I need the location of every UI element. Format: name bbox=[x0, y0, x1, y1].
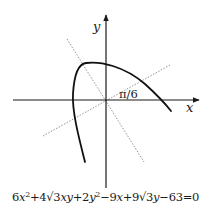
eq-term: +4 bbox=[30, 190, 46, 204]
eq-coef: 6 bbox=[12, 190, 19, 204]
eq-sqrt: √3 bbox=[46, 190, 60, 204]
conic-equation: 6x2+4√3xy+2y2−9x+9√3y−63=0 bbox=[0, 190, 211, 204]
eq-term: +9 bbox=[123, 190, 139, 204]
x-axis-label: x bbox=[186, 100, 194, 115]
eq-sqrt: √3 bbox=[139, 190, 153, 204]
parabola-curve bbox=[73, 63, 171, 162]
eq-term: −63=0 bbox=[159, 190, 199, 204]
conic-diagram: y x π/6 bbox=[0, 0, 211, 216]
eq-var: xy bbox=[60, 190, 72, 204]
eq-term: −9 bbox=[100, 190, 116, 204]
y-axis-label: y bbox=[92, 19, 101, 34]
eq-term: +2 bbox=[73, 190, 89, 204]
rotation-angle-label: π/6 bbox=[119, 87, 138, 101]
